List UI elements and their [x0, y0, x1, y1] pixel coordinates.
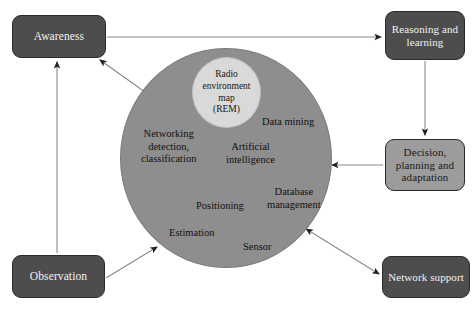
node-reasoning-and-learning-label: Reasoning and learning — [386, 23, 464, 49]
capability-data-mining: Data mining — [262, 116, 314, 129]
edge-core-network-support — [311, 232, 379, 274]
diagram-canvas: Radio environment map (REM) Data mining … — [0, 0, 476, 313]
capability-positioning: Positioning — [196, 200, 244, 213]
node-awareness[interactable]: Awareness — [12, 15, 106, 58]
capability-networking-detection-classification: Networking detection, classification — [141, 128, 196, 166]
node-network-support-label: Network support — [384, 271, 468, 284]
rem-label: Radio environment map (REM) — [202, 69, 250, 115]
capability-database-management: Database management — [267, 186, 321, 211]
capability-estimation: Estimation — [169, 227, 215, 240]
capability-artificial-intelligence: Artificial intelligence — [226, 141, 275, 166]
node-network-support[interactable]: Network support — [382, 256, 470, 298]
node-reasoning-and-learning[interactable]: Reasoning and learning — [385, 11, 465, 60]
edge-observation-to-core — [106, 247, 157, 278]
rem-inner-circle: Radio environment map (REM) — [192, 57, 261, 128]
node-decision-planning-adaptation[interactable]: Decision, planning and adaptation — [385, 139, 465, 191]
node-decision-planning-adaptation-label: Decision, planning and adaptation — [386, 146, 464, 185]
node-awareness-label: Awareness — [30, 30, 88, 44]
node-observation-label: Observation — [26, 270, 91, 284]
node-observation[interactable]: Observation — [12, 255, 105, 298]
capability-sensor: Sensor — [243, 241, 272, 254]
